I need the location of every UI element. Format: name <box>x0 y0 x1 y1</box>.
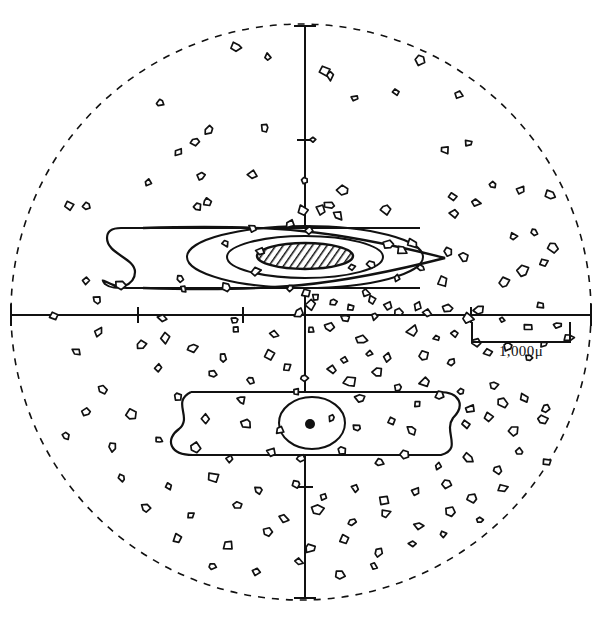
particle <box>292 481 299 489</box>
particle <box>324 202 334 208</box>
particle <box>175 149 181 156</box>
particle <box>50 312 58 319</box>
particle <box>553 323 561 328</box>
particle <box>209 564 216 570</box>
particle <box>234 327 239 332</box>
particle <box>341 316 350 322</box>
particle <box>353 425 360 431</box>
particle <box>415 55 425 65</box>
particle <box>466 140 472 146</box>
particle <box>156 437 162 442</box>
particle <box>297 455 306 462</box>
figure-background <box>0 0 602 635</box>
particle <box>348 304 354 310</box>
particle <box>309 327 314 332</box>
particle <box>175 393 182 400</box>
particle <box>302 289 310 296</box>
particle <box>524 325 532 330</box>
particle <box>221 354 227 362</box>
particle <box>306 544 315 552</box>
particle <box>231 318 238 323</box>
particle <box>419 351 428 360</box>
particle <box>321 494 327 501</box>
particle <box>338 447 345 454</box>
particle <box>209 473 219 482</box>
particle <box>448 359 455 366</box>
particle <box>224 541 233 549</box>
lower-center-dot <box>305 419 315 429</box>
particle <box>415 302 422 311</box>
particle <box>241 419 251 427</box>
particle <box>351 96 358 101</box>
particle <box>537 302 543 308</box>
particle <box>222 283 230 292</box>
particle <box>262 124 268 132</box>
particle <box>294 389 298 395</box>
particle <box>313 295 319 301</box>
particle <box>329 415 334 422</box>
particle <box>284 364 291 371</box>
particle <box>531 229 538 235</box>
figure-canvas: 1,000μ <box>0 0 602 635</box>
figure-root: 1,000μ <box>0 0 602 635</box>
particle <box>543 459 551 465</box>
particle <box>395 384 402 391</box>
particle <box>380 496 389 504</box>
hatched-core <box>257 243 353 269</box>
scale-bar-label: 1,000μ <box>499 343 543 359</box>
particle <box>233 502 242 508</box>
particle <box>415 402 420 407</box>
particle <box>177 276 183 283</box>
particle <box>181 286 186 292</box>
particle <box>188 513 194 518</box>
particle <box>446 507 455 516</box>
particle <box>302 178 308 184</box>
particle <box>330 299 337 305</box>
particle <box>383 240 393 248</box>
upper-spindle-body <box>103 226 445 289</box>
